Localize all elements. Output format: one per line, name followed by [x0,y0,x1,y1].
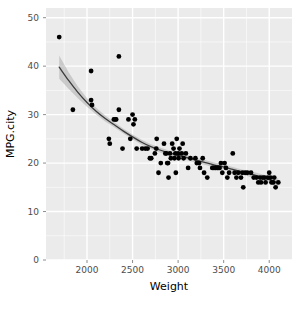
x-axis-title: Weight [150,280,189,293]
x-tick-label: 2500 [121,265,144,275]
x-tick-label: 3000 [167,265,190,275]
x-tick-label: 4000 [258,265,281,275]
y-tick-label: 10 [28,207,40,217]
chart-container: 20002500300035004000 01020304050 Weight … [0,0,307,315]
y-tick-label: 0 [33,255,39,265]
x-tick-label: 2000 [76,265,99,275]
y-tick-label: 20 [28,158,40,168]
y-tick-label: 30 [28,110,40,120]
x-tick-label: 3500 [212,265,235,275]
y-tick-label: 40 [28,61,40,71]
y-axis-title: MPG.city [4,109,17,158]
scatter-plot-svg: 20002500300035004000 01020304050 Weight … [0,0,307,315]
y-tick-label: 50 [28,13,40,23]
plot-panel-background [46,8,292,260]
